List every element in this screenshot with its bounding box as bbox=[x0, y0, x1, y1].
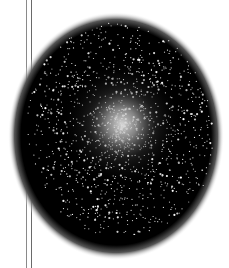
cluster-core bbox=[62, 62, 182, 186]
star-cluster-image bbox=[0, 0, 229, 268]
